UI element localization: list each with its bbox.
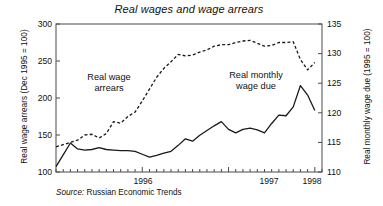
annotation-wagedue-line2: wage due [236,81,276,91]
plot-frame [56,24,322,172]
chart-figure: Real wages and wage arrears Real wage ar… [0,0,383,206]
right-axis-ticks [318,24,322,172]
annotation-wagedue-line1: Real monthly [229,70,283,80]
source-note: Source: Russian Economic Trends [56,188,182,197]
left-axis-ticks [56,24,60,172]
source-text: Russian Economic Trends [87,188,182,197]
plot-area [0,0,383,206]
annotation-real-monthly-wage-due: Real monthly wage due [215,70,297,92]
annotation-arrears-line1: Real wage [87,72,130,82]
source-prefix: Source: [56,188,84,197]
annotation-real-wage-arrears: Real wage arrears [72,72,146,94]
series-line-real-monthly-wage-due [56,86,315,167]
x-axis-ticks [56,167,322,172]
annotation-arrears-line2: arrears [94,83,123,93]
